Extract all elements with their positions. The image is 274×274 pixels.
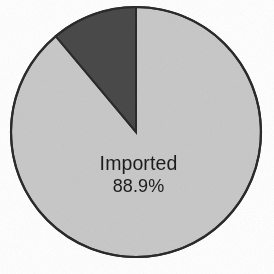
pie-chart-svg (0, 0, 274, 274)
pie-chart-figure: Imported 88.9% (0, 0, 274, 274)
